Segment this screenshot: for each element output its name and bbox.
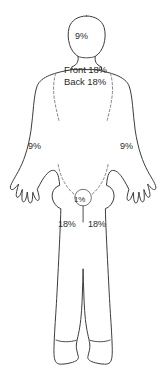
head-percentage-label: 9% [75,31,88,42]
body-outline-illustration [0,0,166,382]
torso-front-percentage-label: Front 18% [64,64,107,76]
genitalia-percentage-label: 1% [74,194,85,205]
left-leg-percentage-label: 18% [58,219,76,230]
head-outline [68,16,105,70]
right-leg-percentage-label: 18% [88,219,106,230]
rule-of-nines-diagram: 9% Front 18% Back 18% 9% 9% 1% 18% 18% [0,0,166,382]
torso-back-percentage-label: Back 18% [64,76,107,88]
left-arm-percentage-label: 9% [28,141,41,152]
right-arm-percentage-label: 9% [120,141,133,152]
torso-percentage-label-group: Front 18% Back 18% [64,64,107,88]
